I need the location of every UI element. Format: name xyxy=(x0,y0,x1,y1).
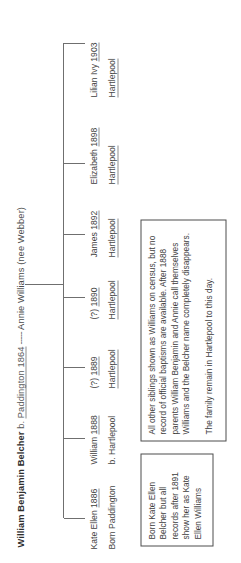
child-node-3: (?) 1889 Hartlepool xyxy=(88,349,118,388)
child-node-6: Elizabeth 1898 Hartlepool xyxy=(88,127,118,184)
child-node-1: Kate Ellen 1886 Born Paddington xyxy=(88,485,117,549)
child-node-5: James 1892 Hartlepool xyxy=(88,210,118,257)
child-birthplace-7: Hartlepool xyxy=(106,58,118,97)
child-name-2: William 1888 xyxy=(88,415,99,464)
child-node-4: (?) 1890 Hartlepool xyxy=(88,280,118,319)
diagram-viewport: William Benjamin Belcher b. Paddington 1… xyxy=(0,0,241,563)
child-node-7: Lilian Ivy 1903 Hartlepool xyxy=(88,42,118,97)
child-node-2: William 1888 b. Hartlepool xyxy=(88,415,117,464)
child-birthplace-5: Hartlepool xyxy=(106,218,118,257)
child-name-5: James 1892 xyxy=(88,210,99,257)
child-birthplace-4: Hartlepool xyxy=(106,280,118,319)
father-birthplace-year: Paddington 1864 xyxy=(15,346,26,418)
note-general-paragraph-2: The family remain in Hartlepool to this … xyxy=(203,226,214,434)
child-name-1: Kate Ellen 1886 xyxy=(88,485,99,549)
child-name-6: Elizabeth 1898 xyxy=(88,127,99,184)
note-box-kate-ellen: Born Kate Ellen Belcher but all records … xyxy=(140,453,213,546)
family-tree-diagram: William Benjamin Belcher b. Paddington 1… xyxy=(0,0,241,563)
child-birthplace-1: Born Paddington xyxy=(106,485,117,549)
child-name-7: Lilian Ivy 1903 xyxy=(88,42,99,97)
note-box-general: All other siblings shown as Williams on … xyxy=(140,219,226,441)
marriage-connector: ----- xyxy=(15,329,25,345)
note-general-paragraph-1: All other siblings shown as Williams on … xyxy=(146,226,192,434)
child-name-3: (?) 1889 xyxy=(88,349,99,388)
child-name-4: (?) 1890 xyxy=(88,280,99,319)
child-birthplace-6: Hartlepool xyxy=(106,145,118,184)
child-birthplace-2: b. Hartlepool xyxy=(106,415,117,464)
parents-title-line: William Benjamin Belcher b. Paddington 1… xyxy=(14,13,26,547)
note-kate-paragraph-1: Born Kate Ellen Belcher but all records … xyxy=(146,460,203,539)
mother-name: Annie Williams (nee Webber) xyxy=(15,206,25,329)
father-name: William Benjamin Belcher xyxy=(15,431,25,547)
child-birthplace-3: Hartlepool xyxy=(106,349,118,388)
father-birth-label: b. xyxy=(15,418,25,431)
